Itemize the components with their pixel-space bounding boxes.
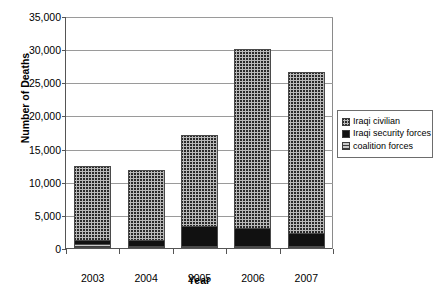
bar-segment <box>74 166 111 240</box>
x-tick-mark <box>280 249 281 254</box>
legend-item: Iraqi security forces <box>342 128 429 139</box>
bar-segment <box>128 246 165 248</box>
bar-2006 <box>234 49 271 248</box>
bar-segment <box>128 170 165 240</box>
bar-segment <box>234 246 271 248</box>
chart-legend: Iraqi civilianIraqi security forcescoali… <box>337 110 433 158</box>
bar-segment <box>288 233 325 246</box>
x-axis-title: Year <box>65 274 333 286</box>
y-tick-label: 35,000 <box>9 11 61 23</box>
y-tick-label: 0 <box>9 243 61 255</box>
bar-segment <box>74 244 111 248</box>
gridline <box>66 50 333 51</box>
x-tick-mark <box>173 249 174 254</box>
x-tick-mark <box>119 249 120 254</box>
y-tick-label: 5,000 <box>9 210 61 222</box>
y-tick-label: 15,000 <box>9 144 61 156</box>
y-tick-label: 30,000 <box>9 44 61 56</box>
y-tick-mark <box>62 50 66 51</box>
x-tick-mark <box>66 249 67 254</box>
gridline <box>66 17 333 18</box>
bar-2003 <box>74 166 111 248</box>
plot-right-border <box>332 17 333 249</box>
plot-area: 05,00010,00015,00020,00025,00030,00035,0… <box>65 17 332 249</box>
x-tick-mark <box>226 249 227 254</box>
bar-segment <box>181 246 218 248</box>
y-tick-label: 25,000 <box>9 77 61 89</box>
horizontal-hatch-swatch <box>342 142 350 150</box>
bar-segment <box>181 135 218 226</box>
y-tick-mark <box>62 183 66 184</box>
y-tick-mark <box>62 83 66 84</box>
bar-2005 <box>181 135 218 248</box>
crosshatch-swatch <box>342 118 350 126</box>
bar-2007 <box>288 72 325 248</box>
legend-item: Iraqi civilian <box>342 116 429 127</box>
y-tick-mark <box>62 150 66 151</box>
bar-segment <box>234 228 271 246</box>
bar-segment <box>288 72 325 232</box>
legend-label: coalition forces <box>353 141 413 152</box>
legend-label: Iraqi civilian <box>353 116 400 127</box>
y-tick-mark <box>62 216 66 217</box>
legend-item: coalition forces <box>342 141 429 152</box>
x-tick-mark <box>333 249 334 254</box>
bar-chart: Number of Deaths 05,00010,00015,00020,00… <box>0 0 440 299</box>
y-tick-mark <box>62 17 66 18</box>
bar-segment <box>234 49 271 228</box>
y-tick-label: 20,000 <box>9 110 61 122</box>
solid-black-swatch <box>342 130 350 138</box>
bar-segment <box>288 246 325 248</box>
legend-label: Iraqi security forces <box>353 128 431 139</box>
y-tick-mark <box>62 116 66 117</box>
bar-2004 <box>128 170 165 248</box>
bar-segment <box>181 226 218 245</box>
y-tick-label: 10,000 <box>9 177 61 189</box>
